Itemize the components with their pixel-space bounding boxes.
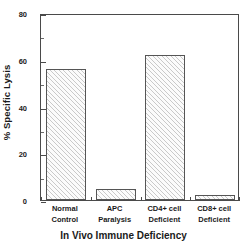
x-tick-label-line: APC	[90, 204, 140, 215]
x-tick-label-line: Paralysis	[90, 215, 140, 226]
y-tick-major	[41, 15, 46, 16]
bar	[195, 195, 235, 200]
y-tick-label: 20	[1, 152, 27, 160]
x-tick	[91, 197, 92, 201]
x-tick-label-line: Deficient	[189, 215, 239, 226]
bar	[96, 189, 136, 200]
y-tick-minor	[41, 132, 44, 133]
y-tick-minor	[41, 85, 44, 86]
y-tick-label: 60	[1, 58, 27, 66]
y-tick-major	[41, 202, 46, 203]
x-tick-label: CD4+ cellDeficient	[140, 204, 190, 225]
x-axis-tick-labels: NormalControlAPCParalysisCD4+ cellDefici…	[40, 204, 239, 228]
y-axis-title-text: % Specific Lysis	[2, 65, 13, 141]
x-tick-label-line: CD8+ cell	[189, 204, 239, 215]
x-tick	[239, 197, 240, 201]
x-tick	[190, 197, 191, 201]
plot-area: 020406080	[40, 14, 239, 201]
y-tick-label: 80	[1, 11, 27, 19]
x-tick-label-line: CD4+ cell	[140, 204, 190, 215]
x-tick-label: CD8+ cellDeficient	[189, 204, 239, 225]
x-tick	[141, 197, 142, 201]
y-tick-label: 40	[1, 105, 27, 113]
y-axis-title: % Specific Lysis	[0, 0, 14, 205]
bar	[145, 55, 185, 200]
y-tick-label: 0	[1, 198, 27, 206]
y-tick-minor	[41, 179, 44, 180]
bar-chart-figure: % Specific Lysis 020406080 NormalControl…	[0, 0, 247, 248]
x-tick-label: NormalControl	[40, 204, 90, 225]
x-tick	[41, 197, 42, 201]
x-tick-label-line: Deficient	[140, 215, 190, 226]
bar	[46, 69, 86, 200]
x-axis-title: In Vivo Immune Deficiency	[0, 230, 247, 241]
x-tick-label-line: Normal	[40, 204, 90, 215]
x-tick-label: APCParalysis	[90, 204, 140, 225]
x-tick-label-line: Control	[40, 215, 90, 226]
y-tick-major	[41, 62, 46, 63]
y-tick-minor	[41, 38, 44, 39]
